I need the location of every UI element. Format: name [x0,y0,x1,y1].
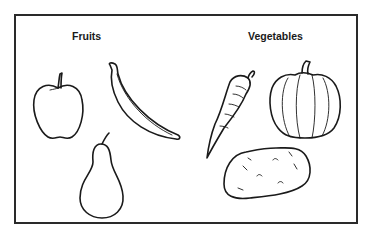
pear-icon [80,133,123,218]
carrot-icon [207,71,254,158]
apple-icon [34,73,83,138]
potato-icon [224,148,310,199]
banana-icon [109,63,179,139]
pumpkin-icon [270,61,340,138]
